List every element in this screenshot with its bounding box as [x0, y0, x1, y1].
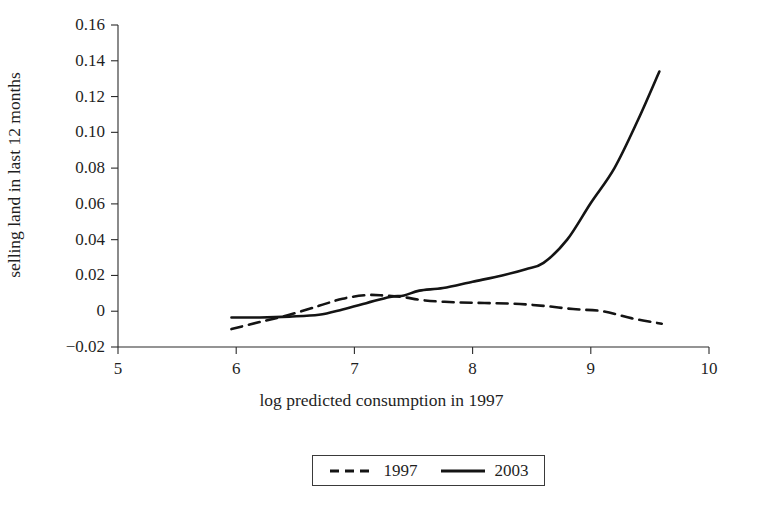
y-tick-label: 0: [0, 301, 105, 321]
series-line-1997: [231, 295, 661, 329]
x-tick-label: 8: [468, 359, 477, 379]
series-line-2003: [231, 72, 659, 318]
x-tick-label: 9: [587, 359, 596, 379]
y-axis-label: selling land in last 12 months: [4, 72, 25, 278]
axes-group: [111, 25, 709, 354]
x-tick-label: 10: [701, 359, 718, 379]
x-axis-label: log predicted consumption in 1997: [0, 390, 763, 411]
x-tick-label: 7: [350, 359, 359, 379]
chart-figure: 0.160.140.120.100.080.060.040.020−0.02 5…: [0, 0, 763, 505]
legend-label-1997: 1997: [384, 462, 418, 479]
legend-label-2003: 2003: [495, 462, 529, 479]
chart-legend: 1997 2003: [312, 455, 545, 486]
y-tick-label: 0.16: [0, 15, 105, 35]
legend-swatch-solid: [440, 465, 486, 477]
x-tick-label: 5: [114, 359, 123, 379]
y-tick-label: 0.14: [0, 51, 105, 71]
legend-item-1997: 1997: [329, 462, 418, 479]
x-tick-label: 6: [232, 359, 241, 379]
y-tick-label: −0.02: [0, 337, 105, 357]
legend-swatch-dashed: [329, 465, 375, 477]
series-group: [231, 72, 661, 330]
plot-area: [0, 0, 763, 505]
legend-item-2003: 2003: [440, 462, 529, 479]
